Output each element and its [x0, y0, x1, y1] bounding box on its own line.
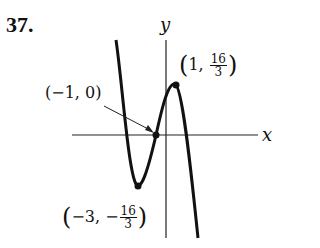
point-min [135, 183, 142, 190]
fraction-max: 163 [210, 53, 227, 78]
x-axis-label: x [262, 124, 272, 145]
arrow-head [145, 125, 154, 133]
fraction-min: 163 [120, 205, 137, 230]
point-max [173, 82, 180, 89]
y-axis-label: y [160, 14, 170, 35]
label-max: (1, 163) [179, 51, 237, 79]
label-min: (−3, −163) [62, 203, 147, 231]
label-xint: (−1, 0) [45, 83, 101, 102]
arrow-line [104, 106, 152, 131]
